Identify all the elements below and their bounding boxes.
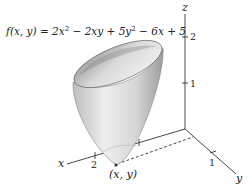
paraboloid-surface xyxy=(68,31,168,167)
paraboloid-figure: f(x, y) = 2x2 − 2xy + 5y2 − 6x + 5 z 2 1… xyxy=(0,0,249,185)
min-point xyxy=(114,163,117,166)
x-axis-label: x xyxy=(58,158,64,169)
function-term-2: − 2xy + 5y xyxy=(69,25,131,37)
x-tick-label-2: 2 xyxy=(91,160,97,170)
function-lhs: f(x, y) = xyxy=(6,25,52,37)
y-tick-label-1: 1 xyxy=(209,158,215,168)
y-axis-label: y xyxy=(236,173,242,184)
z-axis-label: z xyxy=(182,2,188,13)
point-label: (x, y) xyxy=(109,169,137,180)
z-tick-label-1: 1 xyxy=(190,79,196,89)
function-term-1: 2x xyxy=(52,25,65,37)
z-tick-label-2: 2 xyxy=(190,32,196,42)
function-term-3: − 6x + 5 xyxy=(136,25,186,37)
function-label: f(x, y) = 2x2 − 2xy + 5y2 − 6x + 5 xyxy=(6,26,186,37)
